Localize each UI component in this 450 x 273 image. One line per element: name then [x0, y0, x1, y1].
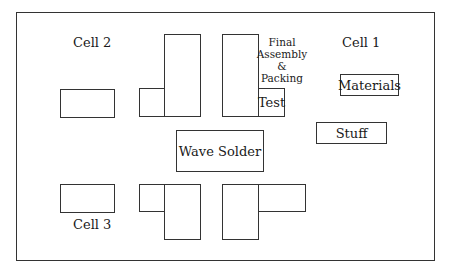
cell-3-tall-station: [164, 184, 201, 240]
final-assembly-label: Final Assembly & Packing: [252, 36, 312, 84]
stuff-area: Stuff: [316, 122, 387, 144]
test-station: Test: [258, 88, 285, 117]
stuff-label: Stuff: [336, 127, 368, 140]
wave-solder-machine: Wave Solder: [176, 130, 264, 172]
materials-area: Materials: [340, 74, 399, 96]
wave-solder-label: Wave Solder: [179, 145, 261, 158]
cell-2-label: Cell 2: [73, 36, 111, 49]
cell-2-small-station: [139, 88, 165, 117]
test-label: Test: [258, 96, 285, 109]
cell-2-tall-station: [164, 34, 201, 117]
bottom-right-tall-station: [222, 184, 259, 240]
cell-3-small-station: [139, 184, 165, 212]
materials-label: Materials: [338, 79, 401, 92]
cell-3-workstation: [60, 184, 115, 213]
bottom-right-wide-station: [258, 184, 306, 212]
cell-2-workstation: [60, 89, 115, 118]
cell-1-label: Cell 1: [342, 36, 380, 49]
cell-3-label: Cell 3: [73, 218, 111, 231]
